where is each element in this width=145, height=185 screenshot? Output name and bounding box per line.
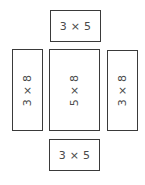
face-top: 3 × 5 bbox=[50, 10, 101, 42]
face-right: 3 × 8 bbox=[107, 50, 138, 131]
face-bottom: 3 × 5 bbox=[49, 139, 100, 171]
face-left-label: 3 × 8 bbox=[21, 74, 34, 106]
face-top-label: 3 × 5 bbox=[60, 20, 92, 33]
face-center-label: 5 × 8 bbox=[68, 74, 81, 106]
face-left: 3 × 8 bbox=[12, 49, 43, 131]
face-center: 5 × 8 bbox=[49, 49, 100, 131]
face-right-label: 3 × 8 bbox=[116, 75, 129, 107]
face-bottom-label: 3 × 5 bbox=[59, 149, 91, 162]
